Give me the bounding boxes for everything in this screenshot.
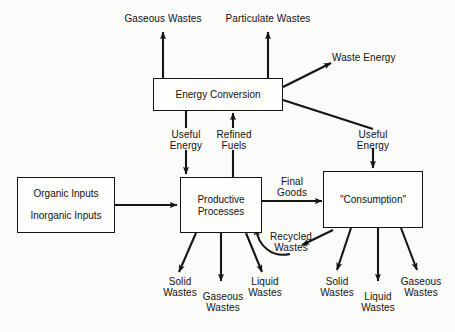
label-pp-solid-wastes-line1: Solid xyxy=(150,276,210,288)
node-energy-conversion[interactable]: Energy Conversion xyxy=(153,78,283,111)
label-useful-energy-right-line1: Useful xyxy=(343,129,403,141)
node-consumption-label: "Consumption" xyxy=(324,194,422,206)
node-inputs-inorganic-label: Inorganic Inputs xyxy=(18,210,114,222)
label-particulate-wastes-top: Particulate Wastes xyxy=(211,13,325,25)
label-consumption-gaseous-wastes-line2: Wastes xyxy=(388,287,454,299)
label-consumption-liquid-wastes-line2: Wastes xyxy=(348,302,408,314)
label-recycled-wastes-line2: Wastes xyxy=(258,242,324,254)
edge-pp-to-solid-wastes xyxy=(179,233,196,272)
node-productive-processes-label-line2: Processes xyxy=(181,206,261,218)
edge-consumption-to-solid-wastes xyxy=(337,228,351,270)
node-consumption[interactable]: "Consumption" xyxy=(323,171,423,228)
label-gaseous-wastes-top: Gaseous Wastes xyxy=(113,13,213,25)
edge-consumption-to-gaseous-wastes xyxy=(401,228,417,270)
label-recycled-wastes-line1: Recycled xyxy=(258,231,324,243)
label-consumption-solid-wastes-line1: Solid xyxy=(307,276,367,288)
label-refined-fuels-line2: Fuels xyxy=(204,140,264,152)
node-energy-conversion-label: Energy Conversion xyxy=(154,89,282,101)
edge-ec-to-useful-energy-right xyxy=(283,100,373,129)
label-pp-gaseous-wastes-line2: Wastes xyxy=(190,302,256,314)
label-pp-liquid-wastes-line2: Wastes xyxy=(235,287,295,299)
edge-ec-to-waste-energy xyxy=(283,63,331,87)
label-final-goods-line2: Goods xyxy=(262,187,322,199)
flow-diagram-canvas: Energy Conversion Organic Inputs Inorgan… xyxy=(0,0,455,332)
node-productive-processes[interactable]: Productive Processes xyxy=(180,177,262,233)
label-final-goods-line1: Final xyxy=(262,176,322,188)
diagram-connectors-layer xyxy=(0,0,455,332)
node-inputs[interactable]: Organic Inputs Inorganic Inputs xyxy=(17,177,115,233)
label-refined-fuels-line1: Refined xyxy=(204,129,264,141)
label-pp-liquid-wastes-line1: Liquid xyxy=(235,276,295,288)
label-useful-energy-right-line2: Energy xyxy=(343,140,403,152)
label-consumption-gaseous-wastes-line1: Gaseous xyxy=(388,276,454,288)
node-productive-processes-label-line1: Productive xyxy=(181,194,261,206)
label-waste-energy: Waste Energy xyxy=(332,52,412,64)
node-inputs-organic-label: Organic Inputs xyxy=(18,188,114,200)
